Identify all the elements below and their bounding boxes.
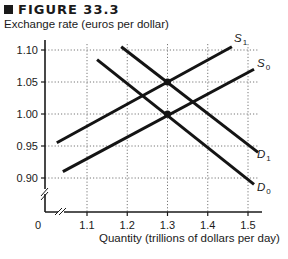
y-tick-label: 1.10 bbox=[17, 44, 38, 56]
origin-label: 0 bbox=[35, 219, 41, 231]
x-tick-label: 1.3 bbox=[160, 219, 175, 231]
equilibrium-point bbox=[164, 79, 171, 86]
curve-label-s1: S1 bbox=[234, 32, 248, 47]
y-tick-label: 1.05 bbox=[17, 76, 38, 88]
y-tick-label: 0.95 bbox=[17, 140, 38, 152]
curve-label-s0: S0 bbox=[257, 57, 271, 72]
curve-label-d0: D0 bbox=[257, 181, 271, 196]
x-axis-break-gap bbox=[58, 209, 64, 215]
curve-d1 bbox=[121, 47, 258, 153]
y-tick-label: 1.00 bbox=[17, 108, 38, 120]
x-tick-label: 1.2 bbox=[120, 219, 135, 231]
equilibrium-point bbox=[164, 111, 171, 118]
x-tick-label: 1.5 bbox=[240, 219, 255, 231]
curve-label-d1: D1 bbox=[257, 148, 271, 163]
x-tick-label: 1.1 bbox=[79, 219, 94, 231]
y-tick-label: 0.90 bbox=[17, 172, 38, 184]
chart-plot: 0.900.951.001.051.101.11.21.31.41.50S1S0… bbox=[0, 0, 288, 259]
x-tick-label: 1.4 bbox=[200, 219, 215, 231]
curve-s0 bbox=[63, 69, 254, 171]
